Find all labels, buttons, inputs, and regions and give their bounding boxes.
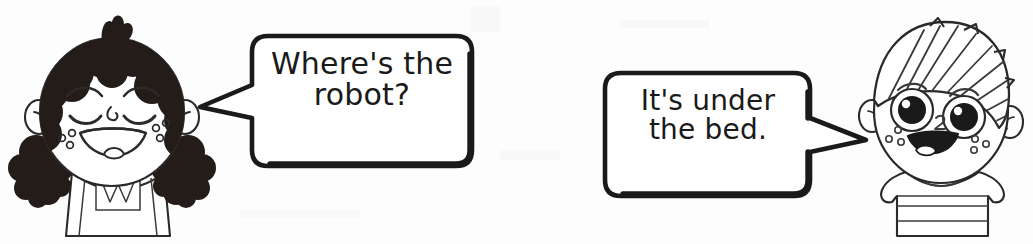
speech-bubble-right-text: It's under the bed. [609,86,807,144]
boy-character [859,18,1023,236]
illustration-scene: Where's the robot? It's under the bed. [0,0,1033,244]
girl-character [8,15,216,236]
speech-bubble-left-text: Where's the robot? [256,48,468,110]
illustration-canvas [0,0,1033,244]
